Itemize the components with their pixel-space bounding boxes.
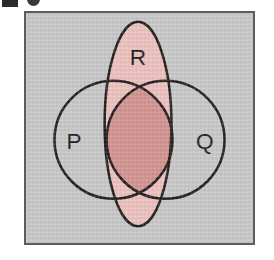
set-label-q: Q: [196, 129, 214, 154]
cropped-glyph-round: [27, 0, 40, 6]
figure-canvas: P Q R: [0, 0, 274, 260]
cropped-caption-glyphs: [0, 0, 46, 9]
venn-diagram-frame: P Q R: [24, 11, 255, 245]
cropped-glyph-square: [2, 0, 18, 7]
set-label-r: R: [130, 45, 146, 70]
set-label-p: P: [67, 129, 82, 154]
venn-diagram-svg: P Q R: [26, 13, 253, 243]
